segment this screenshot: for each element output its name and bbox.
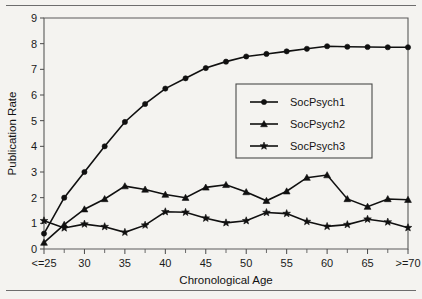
legend-label: SocPsych1 — [290, 96, 345, 108]
data-point-star — [384, 218, 392, 225]
data-point-triangle — [101, 196, 108, 202]
data-point-star — [283, 210, 291, 217]
data-point-star — [263, 209, 271, 216]
data-point-star — [121, 228, 129, 235]
y-tick-label: 3 — [31, 166, 37, 178]
figure-container: 0123456789 <=253035404550556065>=70 SocP… — [0, 0, 422, 299]
data-point-star — [202, 214, 210, 221]
data-point-star — [182, 208, 190, 215]
y-tick-label: 7 — [31, 63, 37, 75]
data-point-star — [323, 222, 331, 229]
data-point-circle — [304, 46, 309, 51]
y-tick-label: 6 — [31, 89, 37, 101]
x-tick-label: 40 — [159, 257, 171, 269]
data-point-circle — [102, 144, 107, 149]
data-point-star — [141, 221, 149, 228]
y-tick-label: 9 — [31, 12, 37, 24]
x-tick-label: 65 — [361, 257, 373, 269]
data-point-circle — [325, 44, 330, 49]
series-socpsych3 — [40, 208, 412, 236]
legend-label: SocPsych2 — [290, 118, 345, 130]
y-tick-label: 0 — [31, 243, 37, 255]
y-axis-title: Publication Rate — [6, 92, 18, 176]
x-tick-label: 60 — [321, 257, 333, 269]
data-point-circle — [203, 65, 208, 70]
data-point-star — [344, 221, 352, 228]
y-tick-label: 8 — [31, 38, 37, 50]
data-point-circle — [163, 86, 168, 91]
series-socpsych2 — [41, 172, 412, 246]
x-tick-label: 50 — [240, 257, 252, 269]
x-axis-title: Chronological Age — [179, 274, 272, 286]
x-axis-ticks: <=253035404550556065>=70 — [31, 249, 420, 269]
data-point-circle — [62, 195, 67, 200]
y-axis-ticks: 0123456789 — [31, 12, 44, 255]
data-point-star — [303, 218, 311, 225]
line-chart: 0123456789 <=253035404550556065>=70 SocP… — [0, 0, 422, 299]
x-tick-label: 55 — [281, 257, 293, 269]
data-point-star — [222, 219, 230, 226]
y-tick-label: 5 — [31, 115, 37, 127]
data-point-star — [364, 215, 372, 222]
data-point-circle — [284, 49, 289, 54]
data-point-circle — [264, 51, 269, 56]
data-point-circle — [122, 119, 127, 124]
y-tick-label: 2 — [31, 192, 37, 204]
data-point-circle — [183, 76, 188, 81]
x-tick-label: 45 — [200, 257, 212, 269]
x-tick-label: >=70 — [395, 257, 420, 269]
data-point-circle — [143, 101, 148, 106]
data-point-star — [81, 220, 89, 227]
data-point-circle — [365, 44, 370, 49]
data-point-circle — [385, 45, 390, 50]
chart-legend: SocPsych1SocPsych2SocPsych3 — [236, 84, 372, 158]
data-point-circle — [41, 231, 46, 236]
x-tick-label: 35 — [119, 257, 131, 269]
data-point-circle — [345, 44, 350, 49]
data-point-circle — [405, 45, 410, 50]
y-tick-label: 1 — [31, 217, 37, 229]
x-tick-label: 30 — [78, 257, 90, 269]
legend-label: SocPsych3 — [290, 140, 345, 152]
x-tick-label: <=25 — [31, 257, 56, 269]
data-point-circle — [223, 59, 228, 64]
data-point-star — [60, 224, 68, 231]
data-point-star — [242, 217, 250, 224]
data-point-circle — [82, 169, 87, 174]
data-point-star — [101, 223, 109, 230]
y-tick-label: 4 — [31, 140, 37, 152]
data-point-circle — [244, 54, 249, 59]
data-point-circle — [261, 99, 266, 104]
